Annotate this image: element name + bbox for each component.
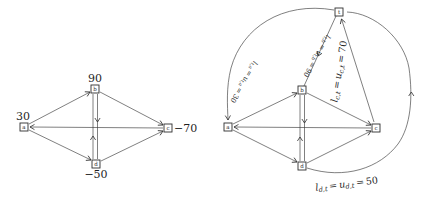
node2-c: c	[372, 124, 380, 132]
edge2-d-t-curve	[307, 12, 411, 173]
capacity-label-c-t: lc,t=uc,t=70	[328, 40, 350, 103]
edge2-t-a-curve	[227, 8, 334, 120]
node-a: a 30	[16, 110, 30, 131]
node2-letter-d: d	[300, 163, 304, 169]
node-b: b 90	[88, 72, 102, 93]
edge2-c-a	[234, 127, 371, 128]
left-diagram: a 30 b 90 c −70 d −50	[16, 72, 197, 181]
node2-letter-c: c	[374, 125, 377, 131]
edge2-a-b	[233, 93, 297, 124]
node-letter-c: c	[166, 125, 169, 131]
node-letter-b: b	[93, 86, 97, 92]
node-letter-d: d	[94, 161, 98, 167]
node-c: c −70	[164, 122, 197, 135]
edge2-d-c	[307, 131, 371, 163]
edge-c-a	[30, 127, 163, 128]
edge-a-b	[29, 92, 90, 124]
capacity-label-t-a: lt,a=ut,a=30	[228, 60, 258, 104]
edge-b-c	[100, 92, 163, 125]
balance-b: 90	[88, 72, 102, 85]
flow-network-diagrams: a 30 b 90 c −70 d −50	[0, 0, 426, 203]
edge-d-c	[101, 131, 163, 161]
node2-d: d	[298, 162, 306, 170]
edge-a-d	[29, 130, 91, 160]
balance-c: −70	[174, 122, 197, 135]
arrow-mid-d-t-icon	[409, 92, 414, 96]
right-diagram: lt,a=ut,a=30 lt,b=ut,b=90 lc,t=uc,t=70 l…	[224, 8, 414, 194]
node2-letter-b: b	[300, 87, 304, 93]
edge2-a-d	[233, 130, 297, 162]
node-d: d −50	[84, 160, 107, 181]
balance-d: −50	[84, 168, 107, 181]
figure-canvas: a 30 b 90 c −70 d −50	[0, 0, 426, 203]
edge2-c-t	[342, 19, 375, 122]
node2-a: a	[224, 123, 232, 131]
capacity-label-t-b: lt,b=ut,b=90	[301, 34, 332, 79]
node2-b: b	[298, 86, 306, 94]
balance-a: 30	[16, 110, 30, 123]
capacity-label-d-t: ld,t=ud,t=50	[315, 174, 379, 194]
node2-t: t	[335, 8, 343, 16]
